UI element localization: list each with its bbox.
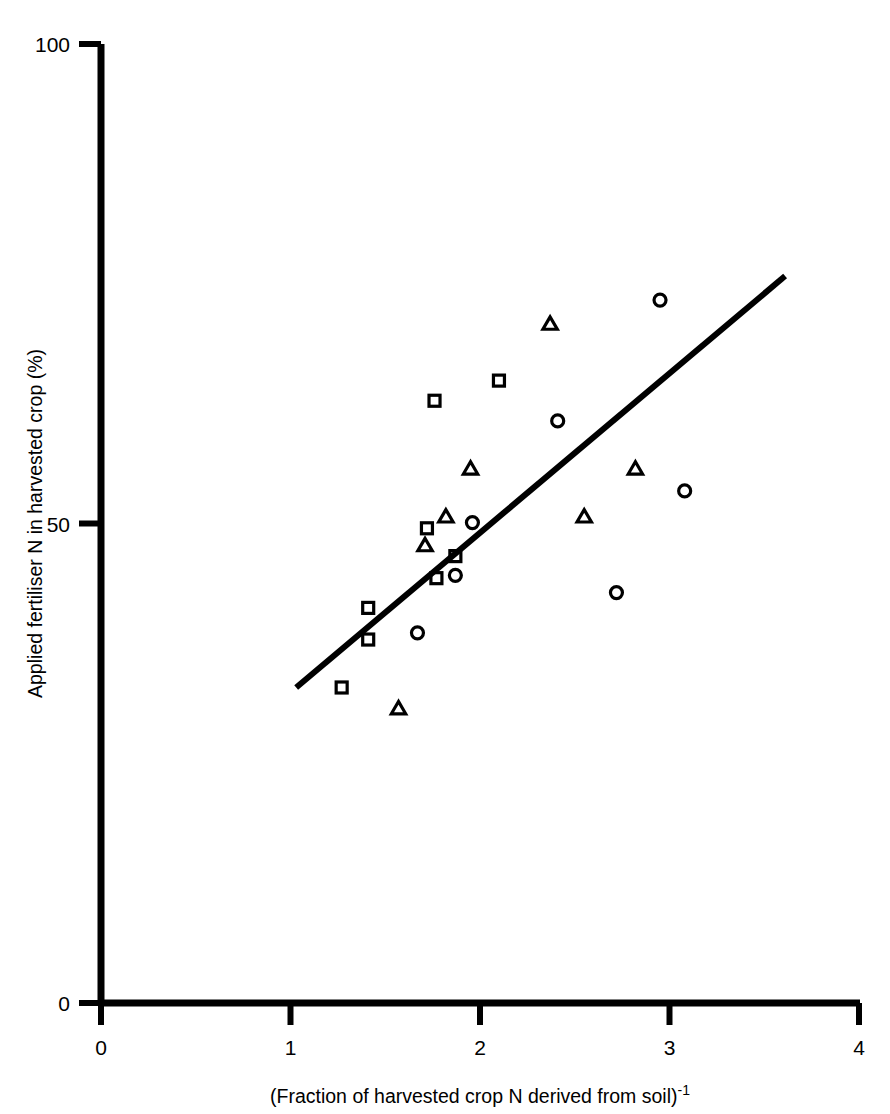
data-point-circle (411, 627, 423, 639)
data-point-circle (449, 569, 461, 581)
data-point-circle (654, 294, 666, 306)
data-point-circle (679, 485, 691, 497)
data-point-circle (466, 517, 478, 529)
regression-line-group (296, 276, 785, 687)
data-point-circle (610, 587, 622, 599)
y-axis-tick-label: 100 (35, 33, 70, 56)
data-point-square (429, 395, 440, 406)
data-point-circle (552, 415, 564, 427)
data-point-triangle (439, 510, 453, 522)
data-point-square (363, 634, 374, 645)
axis-labels-group: Applied fertiliser N in harvested crop (… (24, 349, 690, 1107)
data-point-square (493, 375, 504, 386)
y-axis-tick-label: 0 (58, 992, 70, 1015)
scatter-plot-figure: 01234050100 Applied fertiliser N in harv… (0, 0, 890, 1114)
x-axis-tick-label: 3 (664, 1036, 676, 1059)
data-point-triangle (577, 510, 591, 522)
x-axis-title-base: (Fraction of harvested crop N derived fr… (270, 1085, 677, 1107)
data-point-triangle (628, 462, 642, 474)
data-point-square (336, 682, 347, 693)
data-point-triangle (543, 317, 557, 329)
x-axis-tick-label: 0 (95, 1036, 107, 1059)
x-axis-tick-label: 2 (474, 1036, 486, 1059)
plot-canvas: 01234050100 Applied fertiliser N in harv… (0, 0, 890, 1114)
data-point-triangle (463, 462, 477, 474)
data-point-triangle (418, 538, 432, 550)
data-point-square (421, 523, 432, 534)
data-point-triangle (391, 701, 405, 713)
x-axis-tick-label: 1 (285, 1036, 297, 1059)
y-axis-title: Applied fertiliser N in harvested crop (… (24, 349, 46, 698)
data-point-square (363, 602, 374, 613)
x-axis-title: (Fraction of harvested crop N derived fr… (270, 1082, 690, 1107)
x-axis-title-exponent: -1 (678, 1082, 691, 1098)
y-axis-tick-label: 50 (47, 513, 70, 536)
regression-line (296, 276, 785, 687)
x-axis-tick-label: 4 (853, 1036, 865, 1059)
axes-group: 01234050100 (35, 33, 865, 1059)
